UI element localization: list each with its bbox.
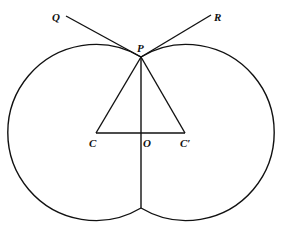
tangent-line-pr [141,15,211,57]
label-c-prime: C′ [180,137,190,149]
radius-c-prime-p-line [141,57,185,133]
label-q: Q [52,11,60,23]
geometry-diagram: Q R P C O C′ [0,0,282,227]
label-o: O [143,137,151,149]
label-r: R [213,11,221,23]
label-c: C [89,137,97,149]
radius-cp-line [96,57,141,133]
tangent-line-pq [66,16,141,57]
label-p: P [137,42,144,54]
